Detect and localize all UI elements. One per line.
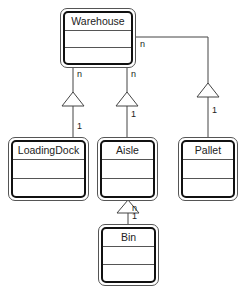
operations-section	[13, 179, 84, 197]
mult-warehouse-pallet: n	[140, 39, 145, 49]
mult-bin: 1	[132, 211, 137, 221]
attributes-section	[183, 160, 233, 179]
mult-warehouse-loadingdock: n	[77, 69, 82, 79]
class-name: Aisle	[102, 142, 153, 160]
class-name: LoadingDock	[13, 142, 84, 160]
class-name: Pallet	[183, 142, 233, 160]
attributes-section	[102, 160, 153, 179]
operations-section	[103, 265, 154, 282]
attributes-section	[65, 31, 131, 48]
aggregation-triangle-loadingdock	[62, 92, 84, 106]
class-name: Bin	[103, 229, 154, 247]
class-warehouse[interactable]: Warehouse	[60, 8, 136, 68]
class-loadingdock[interactable]: LoadingDock	[8, 137, 89, 201]
class-pallet[interactable]: Pallet	[178, 137, 238, 201]
operations-section	[183, 179, 233, 197]
class-bin[interactable]: Bin	[98, 224, 159, 286]
class-name: Warehouse	[65, 13, 131, 31]
attributes-section	[103, 247, 154, 265]
mult-aisle: 1	[131, 109, 136, 119]
operations-section	[65, 48, 131, 64]
aggregation-triangle-pallet	[197, 83, 219, 97]
aggregation-triangle-aisle	[116, 92, 138, 106]
operations-section	[102, 179, 153, 197]
mult-warehouse-aisle: n	[131, 69, 136, 79]
mult-pallet: 1	[212, 105, 217, 115]
attributes-section	[13, 160, 84, 179]
class-aisle[interactable]: Aisle	[97, 137, 158, 201]
mult-loadingdock: 1	[77, 121, 82, 131]
